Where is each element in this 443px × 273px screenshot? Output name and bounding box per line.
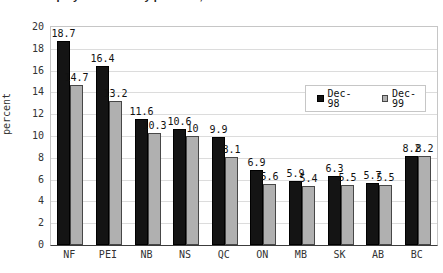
x-tick-label-bc: BC <box>401 250 433 260</box>
x-tick-label-on: ON <box>246 250 278 260</box>
legend: Dec-98 Dec-99 <box>305 85 426 112</box>
bar-dec-99-pei <box>109 101 122 245</box>
y-tick-label: 12 <box>0 109 44 119</box>
bar-dec-99-mb <box>302 186 315 245</box>
value-label-dec-99-qc: 8.1 <box>217 145 247 155</box>
value-label-dec-98-on: 6.9 <box>242 158 272 168</box>
legend-swatch-dec-98-icon <box>317 95 324 102</box>
x-tick-label-pei: PEI <box>92 250 124 260</box>
bar-dec-99-on <box>263 184 276 245</box>
y-tick-label: 10 <box>0 131 44 141</box>
bar-dec-99-nf <box>70 85 83 245</box>
legend-item-dec-99: Dec-99 <box>382 89 426 109</box>
bar-dec-99-nb <box>148 133 161 245</box>
value-label-dec-98-nb: 11.6 <box>127 107 157 117</box>
x-tick-label-sk: SK <box>324 250 356 260</box>
bar-dec-99-bc <box>418 156 431 245</box>
value-label-dec-98-qc: 9.9 <box>204 125 234 135</box>
value-label-dec-99-mb: 5.4 <box>294 174 324 184</box>
legend-label-dec-98: Dec-98 <box>328 89 361 109</box>
x-tick-label-nb: NB <box>131 250 163 260</box>
y-tick-label: 0 <box>0 240 44 250</box>
bar-chart-figure: Unemployment rates by province, December… <box>0 0 443 273</box>
bar-dec-99-ab <box>379 185 392 245</box>
value-label-dec-98-nf: 18.7 <box>49 29 79 39</box>
value-label-dec-99-ab: 5.5 <box>371 173 401 183</box>
x-tick-label-ab: AB <box>362 250 394 260</box>
value-label-dec-99-nf: 14.7 <box>62 73 92 83</box>
x-tick-label-mb: MB <box>285 250 317 260</box>
bar-dec-99-sk <box>341 185 354 245</box>
bar-dec-98-bc <box>405 156 418 245</box>
y-tick-label: 4 <box>0 196 44 206</box>
x-tick-label-qc: QC <box>208 250 240 260</box>
bar-dec-99-ns <box>186 136 199 245</box>
legend-swatch-dec-99-icon <box>382 95 389 102</box>
value-label-dec-99-pei: 13.2 <box>101 89 131 99</box>
value-label-dec-98-pei: 16.4 <box>88 54 118 64</box>
bar-dec-98-ns <box>173 129 186 245</box>
y-tick-label: 2 <box>0 218 44 228</box>
y-tick-label: 14 <box>0 87 44 97</box>
y-tick-label: 16 <box>0 66 44 76</box>
y-tick-label: 6 <box>0 175 44 185</box>
y-tick-label: 18 <box>0 44 44 54</box>
bar-dec-98-ab <box>366 183 379 245</box>
y-tick-label: 20 <box>0 22 44 32</box>
legend-label-dec-99: Dec-99 <box>392 89 425 109</box>
bar-dec-98-mb <box>289 181 302 245</box>
legend-item-dec-98: Dec-98 <box>317 89 361 109</box>
bar-dec-99-qc <box>225 157 238 245</box>
x-tick-label-nf: NF <box>53 250 85 260</box>
value-label-dec-99-bc: 8.2 <box>410 144 440 154</box>
bar-dec-98-nb <box>135 119 148 245</box>
cropped-chart-title: Unemployment rates by province, December… <box>26 0 436 4</box>
chart-title-text: Unemployment rates by province, December… <box>26 0 436 2</box>
x-tick-label-ns: NS <box>169 250 201 260</box>
gridline <box>51 49 437 50</box>
y-tick-label: 8 <box>0 153 44 163</box>
bar-dec-98-sk <box>328 176 341 245</box>
plot-area: 18.714.716.413.211.610.310.6109.98.16.95… <box>50 26 438 246</box>
